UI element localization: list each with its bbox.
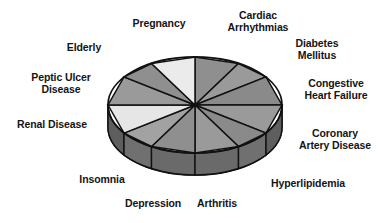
label-coronary-artery-disease: Coronary Artery Disease: [288, 128, 382, 151]
pie-top-face: [108, 57, 282, 153]
label-elderly: Elderly: [53, 42, 115, 54]
label-hyperlipidemia: Hyperlipidemia: [256, 178, 360, 190]
label-arthritis: Arthritis: [186, 198, 248, 210]
pie-chart-graphic: [0, 0, 382, 223]
label-congestive-heart-failure: Congestive Heart Failure: [290, 78, 382, 101]
label-renal-disease: Renal Disease: [6, 119, 98, 131]
pie-chart-figure: Cardiac Arrhythmias Diabetes Mellitus Co…: [0, 0, 382, 223]
label-depression: Depression: [115, 198, 191, 210]
label-insomnia: Insomnia: [68, 174, 136, 186]
label-pregnancy: Pregnancy: [117, 18, 201, 30]
label-peptic-ulcer-disease: Peptic Ulcer Disease: [20, 72, 102, 95]
label-diabetes-mellitus: Diabetes Mellitus: [276, 38, 358, 61]
label-cardiac-arrhythmias: Cardiac Arrhythmias: [203, 10, 313, 33]
